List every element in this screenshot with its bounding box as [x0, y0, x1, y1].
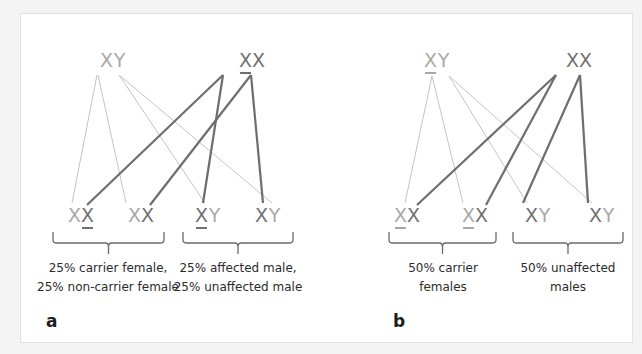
inheritance-lines	[72, 75, 272, 205]
grouping-bracket	[183, 232, 293, 254]
x-chromosome: X	[255, 204, 268, 226]
maternal-inheritance-line	[417, 75, 556, 205]
offspring-genotype: XX	[68, 204, 94, 228]
x-chromosome: X	[407, 204, 420, 226]
x-chromosome: X	[68, 204, 81, 226]
maternal-inheritance-line	[580, 75, 588, 203]
offspring-caption: 50% unaffected	[520, 261, 615, 275]
offspring-caption: 25% carrier female,	[49, 261, 168, 275]
maternal-inheritance-line	[150, 75, 251, 205]
offspring-caption: 25% affected male,	[179, 261, 296, 275]
y-chromosome: Y	[538, 204, 551, 226]
y-chromosome: Y	[113, 49, 126, 71]
x-chromosome: X	[475, 204, 488, 226]
x-chromosome: X	[252, 49, 265, 71]
paternal-inheritance-line	[432, 76, 463, 203]
paternal-inheritance-line	[119, 75, 272, 203]
x-linked-inheritance-diagram: XYXXXXXXXYXY25% carrier female,25% non-c…	[0, 0, 642, 354]
x-chromosome-mutant: X	[195, 204, 208, 226]
grouping-bracket	[53, 232, 164, 254]
offspring-genotype: XY	[255, 204, 281, 226]
x-chromosome: X	[566, 49, 579, 71]
x-chromosome: X	[100, 49, 113, 71]
offspring-genotype: XX	[128, 204, 154, 226]
offspring-genotype: XY	[589, 204, 615, 226]
offspring-caption: females	[419, 280, 467, 294]
maternal-inheritance-line	[203, 75, 223, 203]
x-chromosome: X	[589, 204, 602, 226]
parent-father-genotype: XY	[424, 49, 450, 73]
paternal-inheritance-line	[72, 75, 97, 203]
inheritance-lines	[405, 75, 592, 205]
panel-a: XYXXXXXXXYXY25% carrier female,25% non-c…	[37, 49, 302, 331]
offspring-caption: 25% unaffected male	[174, 280, 303, 294]
y-chromosome: Y	[208, 204, 221, 226]
grouping-bracket	[389, 232, 496, 254]
x-chromosome: X	[141, 204, 154, 226]
maternal-inheritance-line	[87, 75, 223, 205]
panel-label: a	[46, 311, 57, 331]
parent-mother-genotype: XX	[239, 49, 265, 73]
offspring-caption: 50% carrier	[408, 261, 478, 275]
x-chromosome-mutant: X	[81, 204, 94, 226]
x-chromosome: X	[128, 204, 141, 226]
panel-b: XYXXXXXXXYXY50% carrierfemales50% unaffe…	[389, 49, 623, 331]
y-chromosome: Y	[602, 204, 615, 226]
parent-mother-genotype: XX	[566, 49, 592, 71]
x-chromosome: X	[525, 204, 538, 226]
maternal-inheritance-line	[486, 75, 556, 205]
y-chromosome: Y	[437, 49, 450, 71]
panel-label: b	[393, 311, 405, 331]
offspring-genotype: XY	[525, 204, 551, 226]
offspring-genotype: XX	[394, 204, 420, 228]
paternal-inheritance-line	[405, 76, 432, 203]
paternal-inheritance-line	[119, 75, 205, 203]
grouping-bracket	[513, 232, 623, 254]
y-chromosome: Y	[268, 204, 281, 226]
paternal-inheritance-line	[98, 75, 126, 203]
offspring-caption: males	[550, 280, 586, 294]
maternal-inheritance-line	[251, 75, 263, 203]
x-chromosome: X	[579, 49, 592, 71]
maternal-inheritance-line	[523, 75, 580, 203]
offspring-genotype: XY	[195, 204, 221, 228]
x-chromosome-mutant: X	[394, 204, 407, 226]
x-chromosome-mutant: X	[239, 49, 252, 71]
x-chromosome-mutant: X	[424, 49, 437, 71]
offspring-genotype: XX	[462, 204, 488, 228]
x-chromosome-mutant: X	[462, 204, 475, 226]
offspring-caption: 25% non-carrier female	[37, 280, 179, 294]
parent-father-genotype: XY	[100, 49, 126, 71]
